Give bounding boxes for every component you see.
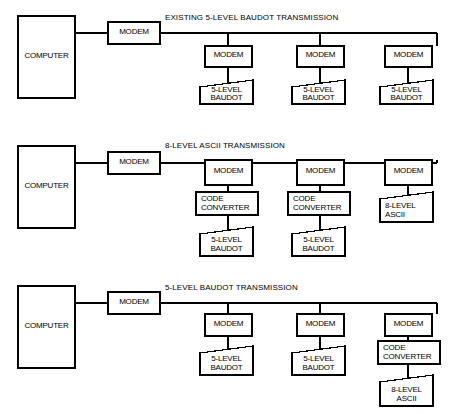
terminal-shape <box>292 227 345 256</box>
diagram-vector-layer <box>0 0 454 414</box>
branch-modem-box <box>385 46 432 67</box>
branch-modem-box <box>297 46 344 67</box>
branch-modem-box <box>205 46 252 67</box>
host-modem-box <box>108 292 160 314</box>
branch-modem-box <box>385 314 432 336</box>
terminal-shape <box>200 346 253 375</box>
terminal-shape <box>292 80 345 104</box>
computer-box <box>18 16 75 98</box>
terminal-shape <box>380 375 433 406</box>
network-topology-diagram: COMPUTER MODEM EXISTING 5-LEVEL BAUDOT T… <box>0 0 454 414</box>
terminal-shape <box>380 80 433 104</box>
host-modem-box <box>108 22 160 44</box>
host-modem-box <box>108 152 160 174</box>
code-converter-box <box>378 341 440 364</box>
branch-modem-box <box>205 160 252 185</box>
terminal-shape <box>380 192 433 222</box>
branch-modem-box <box>205 314 252 336</box>
computer-box <box>18 146 75 228</box>
branch-modem-box <box>385 160 432 185</box>
branch-modem-box <box>297 160 344 185</box>
code-converter-box <box>288 192 350 215</box>
code-converter-box <box>196 192 258 215</box>
terminal-shape <box>292 346 345 375</box>
branch-modem-box <box>297 314 344 336</box>
terminal-shape <box>200 80 253 104</box>
terminal-shape <box>200 227 253 256</box>
computer-box <box>18 286 75 368</box>
